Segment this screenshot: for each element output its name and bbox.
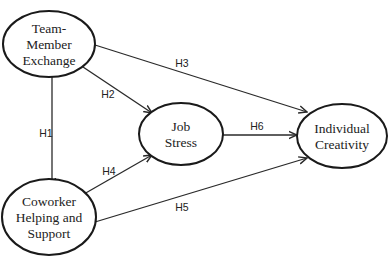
edge-label-h6: H6 [250,120,264,132]
node-chs: CoworkerHelping andSupport [2,179,96,255]
edge-h4-arrow [84,155,152,194]
node-ic-label-line: Individual [314,121,370,136]
node-js-label-line: Job [172,119,191,134]
node-tmx-label-line: Member [26,37,72,52]
node-ic-label-line: Creativity [315,137,369,152]
node-js-label-line: Stress [165,135,197,150]
node-chs-label-line: Helping and [16,210,83,225]
edge-h2-arrow [83,67,152,113]
node-tmx-label-line: Exchange [22,53,75,68]
edge-label-h4: H4 [102,165,116,177]
research-model-diagram: Team-MemberExchangeCoworkerHelping andSu… [0,0,390,266]
edge-label-h1: H1 [39,127,53,139]
node-tmx-label-line: Team- [32,21,67,36]
edge-h3-arrow [95,45,307,112]
node-chs-label-line: Coworker [22,194,76,209]
edge-label-h3: H3 [175,57,189,69]
node-chs-label-line: Support [28,226,71,241]
edge-label-h2: H2 [101,88,115,100]
edge-label-h5: H5 [175,201,189,213]
nodes: Team-MemberExchangeCoworkerHelping andSu… [2,11,387,255]
edge-h5-arrow [95,158,307,222]
node-js: JobStress [139,103,223,165]
node-tmx: Team-MemberExchange [3,11,95,77]
node-ic: IndividualCreativity [297,104,387,168]
